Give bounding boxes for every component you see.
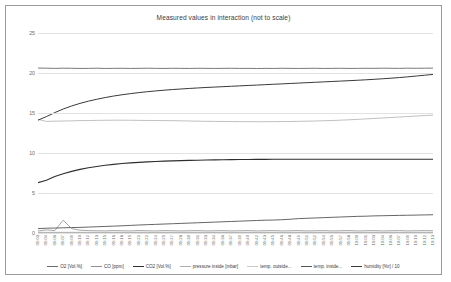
chart-legend: O2 [Vol.%]CO [ppm]CO2 [Vol.%]pressure in…: [6, 264, 441, 269]
x-axis-tick-label: 10:07: [397, 235, 401, 245]
x-axis-tick-label: 09:15: [103, 235, 107, 245]
x-axis-tick-label: 09:37: [229, 235, 233, 245]
x-axis-tick-label: 10:12: [423, 235, 427, 245]
x-axis-tick-label: 09:39: [238, 235, 242, 245]
x-axis-tick-label: 09:42: [255, 235, 259, 245]
x-axis-tick-label: 09:22: [145, 235, 149, 245]
legend-item[interactable]: CO2 [Vol.%]: [133, 264, 171, 269]
legend-swatch-line-icon: [133, 266, 144, 267]
x-axis-tick-label: 09:06: [53, 235, 57, 245]
x-axis-tick-label: 09:45: [271, 235, 275, 245]
y-axis-tick-label: 25: [29, 30, 35, 36]
x-axis-tick-label: 10:00: [355, 235, 359, 245]
plot-area: 0510152025: [38, 33, 433, 233]
x-axis-tick-label: 09:16: [112, 235, 116, 245]
x-axis-tick-label: 10:01: [364, 235, 368, 245]
legend-label: O2 [Vol.%]: [60, 264, 82, 269]
x-axis-tick-label: 10:06: [389, 235, 393, 245]
legend-item[interactable]: humidity [%r] / 10: [351, 264, 400, 269]
legend-label: humidity [%r] / 10: [364, 264, 400, 269]
y-axis-tick-label: 20: [29, 70, 35, 76]
series-line: [38, 115, 433, 122]
x-axis-tick-label: 09:04: [44, 235, 48, 245]
x-axis-line: [38, 232, 433, 233]
x-axis-tick-label: 09:30: [187, 235, 191, 245]
legend-swatch-line-icon: [91, 266, 102, 267]
legend-swatch-line-icon: [301, 266, 312, 267]
x-axis-tick-label: 09:25: [162, 235, 166, 245]
legend-item[interactable]: temp. outside...: [247, 264, 291, 269]
legend-label: CO2 [Vol.%]: [146, 264, 171, 269]
x-axis-tick-label: 09:28: [179, 235, 183, 245]
x-axis-tick-label: 10:03: [372, 235, 376, 245]
gridline: [38, 233, 433, 234]
x-axis-tick-label: 09:51: [305, 235, 309, 245]
legend-item[interactable]: temp. inside...: [301, 264, 343, 269]
x-axis-tick-label: 09:19: [128, 235, 132, 245]
legend-swatch-line-icon: [47, 266, 58, 267]
x-axis-tick-label: 09:03: [36, 235, 40, 245]
x-axis-tick-label: 09:31: [196, 235, 200, 245]
x-axis-tick-label: 09:34: [212, 235, 216, 245]
x-axis-tick-label: 09:52: [313, 235, 317, 245]
x-axis-tick-label: 09:55: [330, 235, 334, 245]
gridline: [38, 153, 433, 154]
x-axis-tick-label: 09:36: [221, 235, 225, 245]
x-axis-tick-label: 09:33: [204, 235, 208, 245]
x-axis-tick-label: 09:07: [61, 235, 65, 245]
x-axis-tick-label: 09:48: [288, 235, 292, 245]
x-axis-tick-label: 09:43: [263, 235, 267, 245]
x-axis-tick-label: 09:13: [95, 235, 99, 245]
x-axis-labels: 09:0309:0409:0609:0709:0909:1009:1209:13…: [38, 235, 433, 261]
legend-label: CO [ppm]: [104, 264, 124, 269]
x-axis-tick-label: 09:12: [86, 235, 90, 245]
y-axis-tick-label: 10: [29, 150, 35, 156]
chart-title: Measured values in interaction (not to s…: [6, 14, 441, 21]
series-line: [38, 159, 433, 182]
gridline: [38, 73, 433, 74]
series-line: [38, 220, 433, 231]
legend-swatch-line-icon: [351, 266, 362, 267]
x-axis-tick-label: 09:40: [246, 235, 250, 245]
legend-label: temp. outside...: [260, 264, 291, 269]
y-axis-tick-label: 15: [29, 110, 35, 116]
x-axis-tick-label: 09:57: [339, 235, 343, 245]
series-line: [38, 215, 433, 229]
legend-label: pressure inside [mbar]: [193, 264, 238, 269]
gridline: [38, 193, 433, 194]
series-canvas: [38, 33, 433, 233]
x-axis-tick-label: 09:09: [70, 235, 74, 245]
legend-label: temp. inside...: [314, 264, 343, 269]
x-axis-tick-label: 09:27: [170, 235, 174, 245]
legend-item[interactable]: pressure inside [mbar]: [180, 264, 238, 269]
x-axis-tick-label: 09:54: [322, 235, 326, 245]
x-axis-tick-label: 10:13: [431, 235, 435, 245]
legend-item[interactable]: CO [ppm]: [91, 264, 124, 269]
y-axis-tick-label: 5: [32, 190, 35, 196]
legend-swatch-line-icon: [180, 266, 191, 267]
legend-item[interactable]: O2 [Vol.%]: [47, 264, 82, 269]
x-axis-tick-label: 09:10: [78, 235, 82, 245]
x-axis-tick-label: 09:21: [137, 235, 141, 245]
chart-frame: Measured values in interaction (not to s…: [5, 5, 442, 275]
x-axis-tick-label: 10:09: [406, 235, 410, 245]
x-axis-tick-label: 09:46: [280, 235, 284, 245]
x-axis-tick-label: 09:18: [120, 235, 124, 245]
x-axis-tick-label: 09:24: [154, 235, 158, 245]
x-axis-tick-label: 10:04: [381, 235, 385, 245]
x-axis-tick-label: 10:10: [414, 235, 418, 245]
x-axis-tick-label: 09:58: [347, 235, 351, 245]
gridline: [38, 113, 433, 114]
gridline: [38, 33, 433, 34]
legend-swatch-line-icon: [247, 266, 258, 267]
x-axis-tick-label: 09:49: [297, 235, 301, 245]
